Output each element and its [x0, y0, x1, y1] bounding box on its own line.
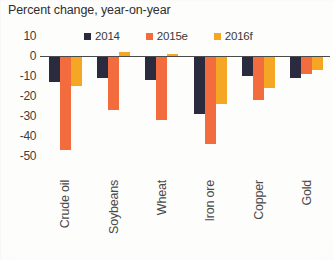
- bar[interactable]: [253, 56, 264, 100]
- legend-label: 2014: [95, 30, 120, 42]
- y-axis-tick-label: -40: [6, 129, 36, 143]
- x-axis-label-slot: Copper: [251, 180, 267, 258]
- x-axis-label-slot: Crude oil: [57, 180, 73, 258]
- bar[interactable]: [156, 56, 167, 120]
- square-swatch-icon: [146, 33, 153, 40]
- chart-figure: Percent change, year-on-year 2014 2015e …: [0, 0, 333, 260]
- y-axis-tick-label: -10: [6, 69, 36, 83]
- y-axis: 100-10-20-30-40-50: [2, 36, 36, 178]
- chart-legend: 2014 2015e 2016f: [84, 30, 253, 42]
- bar[interactable]: [216, 56, 227, 104]
- y-axis-tick-label: 10: [6, 29, 36, 43]
- bar[interactable]: [194, 56, 205, 114]
- bar[interactable]: [205, 56, 216, 144]
- bar[interactable]: [71, 56, 82, 86]
- y-axis-tick-label: -30: [6, 109, 36, 123]
- square-swatch-icon: [84, 33, 91, 40]
- x-axis-tick-label: Soybeans: [107, 180, 121, 234]
- bar[interactable]: [290, 56, 301, 78]
- x-axis-category-labels: Crude oilSoybeansWheatIron oreCopperGold: [40, 180, 330, 260]
- x-axis-label-slot: Soybeans: [106, 180, 122, 258]
- y-axis-tick-label: -20: [6, 89, 36, 103]
- bar[interactable]: [97, 56, 108, 78]
- bar-group: [290, 36, 323, 178]
- legend-label: 2016f: [225, 30, 253, 42]
- bar[interactable]: [264, 56, 275, 88]
- bar-group: [145, 36, 178, 178]
- x-axis-tick-label: Wheat: [155, 180, 169, 215]
- bar[interactable]: [145, 56, 156, 80]
- legend-item-2016f[interactable]: 2016f: [214, 30, 253, 42]
- bar[interactable]: [242, 56, 253, 76]
- bar-group: [194, 36, 227, 178]
- bar[interactable]: [108, 56, 119, 110]
- x-axis-label-slot: Wheat: [154, 180, 170, 258]
- legend-item-2015e[interactable]: 2015e: [146, 30, 188, 42]
- y-axis-tick-label: 0: [6, 49, 36, 63]
- bar[interactable]: [301, 56, 312, 74]
- bar[interactable]: [60, 56, 71, 150]
- bar-group: [49, 36, 82, 178]
- x-axis-tick-label: Copper: [252, 180, 266, 220]
- y-axis-tick-label: -50: [6, 149, 36, 163]
- x-axis-label-slot: Gold: [299, 180, 315, 258]
- x-axis-tick-label: Iron ore: [203, 180, 217, 221]
- plot-area: [40, 36, 330, 178]
- square-swatch-icon: [214, 33, 221, 40]
- legend-label: 2015e: [157, 30, 188, 42]
- bar[interactable]: [49, 56, 60, 82]
- zero-axis-line: [40, 56, 330, 57]
- legend-item-2014[interactable]: 2014: [84, 30, 120, 42]
- bar-group: [242, 36, 275, 178]
- x-axis-tick-label: Crude oil: [58, 180, 72, 228]
- x-axis-tick-label: Gold: [300, 180, 314, 206]
- chart-title: Percent change, year-on-year: [8, 3, 171, 17]
- bar[interactable]: [312, 56, 323, 70]
- bar-group: [97, 36, 130, 178]
- x-axis-label-slot: Iron ore: [202, 180, 218, 258]
